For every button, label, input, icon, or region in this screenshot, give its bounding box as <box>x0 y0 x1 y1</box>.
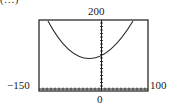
x-origin-label: 0 <box>97 94 103 105</box>
x-min-label: −150 <box>7 80 30 91</box>
x-max-label: 100 <box>150 80 167 91</box>
y-max-label: 200 <box>88 6 105 17</box>
viewing-window-frame <box>39 20 148 91</box>
